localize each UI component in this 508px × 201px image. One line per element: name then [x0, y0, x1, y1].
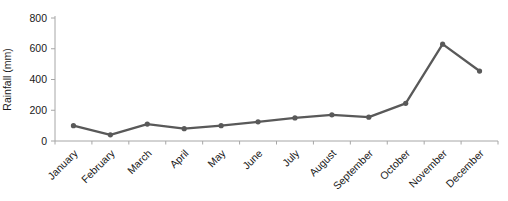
- x-tick-label: September: [330, 147, 375, 192]
- data-point-marker: [255, 119, 260, 124]
- y-axis-title: Rainfall (mm): [1, 48, 13, 110]
- y-tick-label: 0: [41, 135, 47, 147]
- x-tick-label: August: [307, 147, 339, 179]
- y-tick-label: 400: [29, 73, 47, 85]
- rainfall-line-chart: 0200400600800JanuaryFebruaryMarchAprilMa…: [0, 0, 508, 201]
- x-tick-label: May: [205, 146, 228, 169]
- x-tick-label: July: [280, 146, 302, 168]
- y-tick-label: 800: [29, 12, 47, 24]
- y-tick-label: 200: [29, 104, 47, 116]
- x-tick-label: November: [406, 147, 449, 190]
- data-point-marker: [219, 123, 224, 128]
- chart-canvas: 0200400600800JanuaryFebruaryMarchAprilMa…: [0, 0, 508, 201]
- x-tick-label: April: [167, 147, 190, 170]
- data-point-marker: [440, 42, 445, 47]
- data-point-marker: [145, 121, 150, 126]
- y-tick-label: 600: [29, 42, 47, 54]
- series-line: [73, 44, 479, 135]
- data-point-marker: [108, 132, 113, 137]
- x-tick-label: February: [79, 146, 118, 185]
- x-tick-label: March: [125, 147, 154, 176]
- data-point-marker: [366, 115, 371, 120]
- x-tick-label: June: [240, 147, 265, 172]
- data-point-marker: [292, 115, 297, 120]
- data-point-marker: [403, 101, 408, 106]
- data-point-marker: [329, 112, 334, 117]
- data-point-marker: [71, 123, 76, 128]
- data-point-marker: [182, 126, 187, 131]
- x-tick-label: January: [45, 146, 80, 181]
- x-tick-label: December: [443, 147, 486, 190]
- data-point-marker: [477, 68, 482, 73]
- x-tick-label: October: [377, 147, 412, 182]
